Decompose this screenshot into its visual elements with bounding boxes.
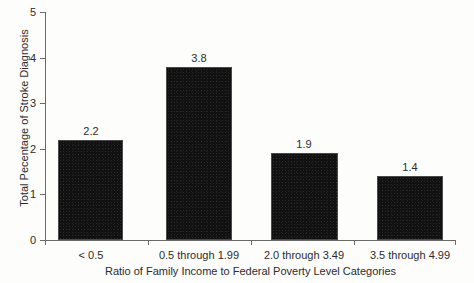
plot-area: 0 1 2 3 4 5 2.2 3.8 1.9 1.4 < 0.5 0.5 th…: [0, 0, 474, 283]
x-category-label-1: < 0.5: [55, 249, 127, 261]
bar-value-label-2: 3.8: [164, 53, 234, 64]
x-tick-2: [251, 240, 252, 245]
x-tick-start: [45, 240, 46, 245]
y-tick-5: [40, 12, 45, 13]
bar-category-3: [271, 153, 338, 240]
x-category-label-3: 2.0 through 3.49: [254, 249, 354, 261]
y-tick-4: [40, 58, 45, 59]
x-tick-3: [354, 240, 355, 245]
x-tick-1: [148, 240, 149, 245]
y-tick-label-0: 0: [24, 235, 36, 246]
bar-category-4: [377, 176, 443, 240]
y-axis-title: Total Pecentage of Stroke Diagnosis: [18, 18, 30, 218]
y-axis-line: [45, 12, 46, 241]
x-axis-title: Ratio of Family Income to Federal Povert…: [45, 265, 456, 277]
bar-value-label-1: 2.2: [56, 126, 126, 137]
bar-category-2: [166, 67, 232, 240]
bar-value-label-4: 1.4: [375, 162, 445, 173]
y-tick-2: [40, 149, 45, 150]
bar-chart-figure: 0 1 2 3 4 5 2.2 3.8 1.9 1.4 < 0.5 0.5 th…: [0, 0, 474, 283]
y-tick-1: [40, 194, 45, 195]
bar-value-label-3: 1.9: [269, 139, 339, 150]
x-category-label-2: 0.5 through 1.99: [149, 249, 249, 261]
x-category-label-4: 3.5 through 4.99: [360, 249, 460, 261]
x-tick-end: [455, 240, 456, 245]
y-tick-3: [40, 103, 45, 104]
y-tick-label-5: 5: [24, 7, 36, 18]
bar-category-1: [58, 140, 123, 240]
